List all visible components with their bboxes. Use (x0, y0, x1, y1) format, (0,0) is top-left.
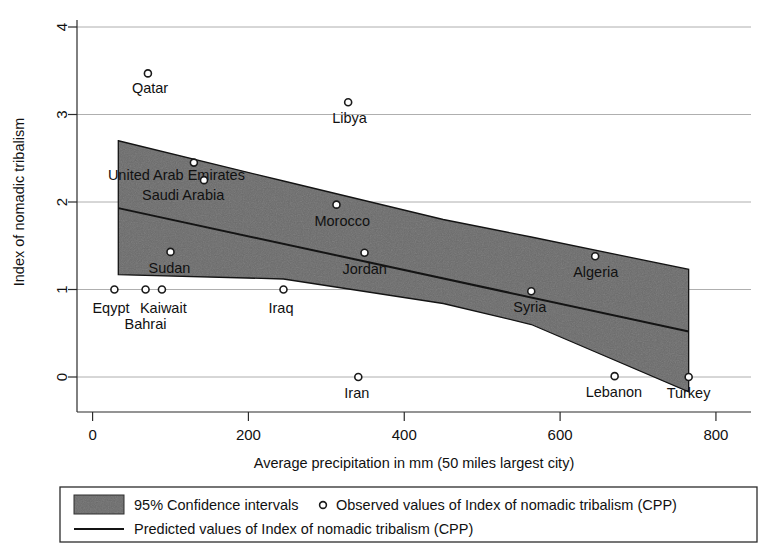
data-point-label: Iran (344, 385, 369, 401)
legend-predicted-label: Predicted values of Index of nomadic tri… (134, 521, 473, 537)
data-point-label: Algeria (573, 264, 619, 280)
data-point-marker (528, 288, 535, 295)
y-tick-label: 2 (53, 198, 70, 206)
data-point-marker (345, 99, 352, 106)
x-tick-label: 600 (548, 426, 573, 443)
data-point-marker (592, 253, 599, 260)
data-point-marker (111, 286, 118, 293)
y-axis-title: Index of nomadic tribalism (11, 118, 27, 286)
data-point-marker (142, 286, 149, 293)
chart-svg: QatarLibyaUnited Arab EmiratesSaudi Arab… (0, 0, 767, 551)
open-circle-marker-icon (320, 502, 327, 509)
data-point-label: Qatar (132, 80, 168, 96)
data-point-label: Bahrai (125, 316, 167, 332)
data-point-label: Libya (332, 110, 368, 126)
data-point-label: Lebanon (586, 384, 642, 400)
data-point-marker (190, 159, 197, 166)
data-point-marker (333, 201, 340, 208)
y-tick-label: 0 (53, 373, 70, 381)
data-point-label: Saudi Arabia (142, 187, 225, 203)
data-point-label: Iraq (268, 300, 293, 316)
y-tick-label: 1 (53, 285, 70, 293)
legend-ci-label: 95% Confidence intervals (134, 497, 298, 513)
data-point-label: Morocco (314, 213, 370, 229)
x-axis-title: Average precipitation in mm (50 miles la… (254, 455, 574, 471)
data-point-label: United Arab Emirates (108, 167, 245, 183)
x-tick-label: 400 (392, 426, 417, 443)
data-point-marker (167, 248, 174, 255)
gray-band-swatch-icon (74, 495, 124, 514)
data-point-marker (685, 374, 692, 381)
data-point-label: Syria (513, 299, 547, 315)
data-point-label: Turkey (667, 385, 712, 401)
data-point-label: Sudan (149, 260, 191, 276)
data-point-marker (611, 373, 618, 380)
data-point-marker (355, 374, 362, 381)
x-tick-label: 200 (236, 426, 261, 443)
data-point-marker (201, 177, 208, 184)
data-point-marker (280, 286, 287, 293)
data-point-label: Kaiwait (140, 300, 187, 316)
x-tick-label: 800 (703, 426, 728, 443)
data-point-label: Eqypt (92, 300, 129, 316)
x-tick-label: 0 (88, 426, 96, 443)
y-tick-label: 3 (53, 110, 70, 118)
legend-observed-label: Observed values of Index of nomadic trib… (336, 497, 677, 513)
data-point-label: Jordan (343, 261, 387, 277)
chart-legend: 95% Confidence intervals Observed values… (60, 487, 757, 542)
scatter-plot-figure: QatarLibyaUnited Arab EmiratesSaudi Arab… (0, 0, 767, 551)
data-point-marker (144, 70, 151, 77)
y-tick-label: 4 (53, 23, 70, 31)
data-point-marker (361, 249, 368, 256)
data-point-marker (158, 286, 165, 293)
